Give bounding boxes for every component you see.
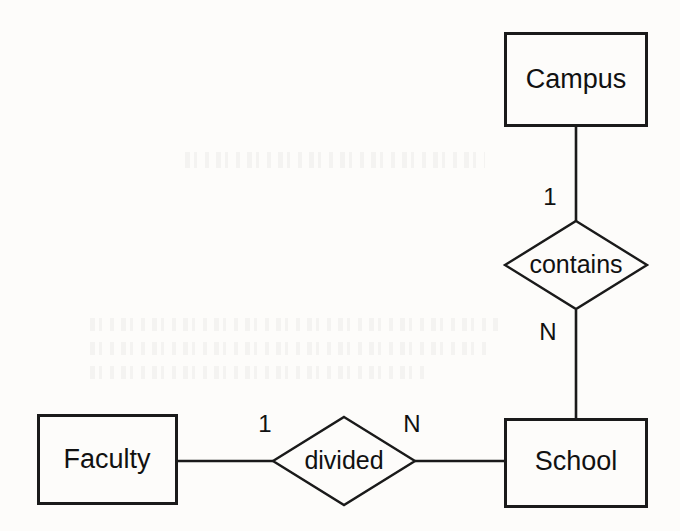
- relationship-contains[interactable]: contains: [505, 221, 647, 309]
- relationship-divided[interactable]: divided: [273, 417, 415, 505]
- relationship-contains-label: contains: [529, 250, 622, 278]
- entity-faculty[interactable]: Faculty: [39, 416, 177, 504]
- cardinality-faculty-divided: 1: [258, 410, 271, 437]
- entity-campus-label: Campus: [526, 64, 627, 94]
- relationship-divided-label: divided: [304, 446, 383, 474]
- entity-faculty-label: Faculty: [63, 444, 151, 474]
- entity-campus[interactable]: Campus: [506, 34, 647, 126]
- cardinality-divided-school: N: [403, 410, 420, 437]
- cardinality-campus-contains: 1: [543, 183, 556, 210]
- entity-school[interactable]: School: [506, 420, 647, 507]
- cardinality-contains-school: N: [539, 318, 556, 345]
- entity-school-label: School: [535, 446, 618, 476]
- er-diagram-canvas: Campus contains 1 N School Faculty divid…: [0, 0, 680, 531]
